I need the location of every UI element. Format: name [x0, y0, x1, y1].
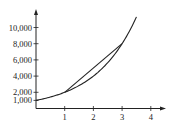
- x-axis-arrow-icon: [160, 107, 166, 111]
- y-tick-label: 2,000: [13, 87, 32, 97]
- exponential-curve: [36, 17, 136, 101]
- y-tick-label: 10,000: [9, 23, 32, 33]
- series: [36, 17, 136, 101]
- y-tick-label: 4,000: [13, 71, 32, 81]
- x-tick-label: 1: [63, 112, 67, 122]
- y-tick-label: 6,000: [13, 55, 32, 65]
- y-ticks: 1,0002,0004,0006,0008,00010,000: [9, 23, 39, 106]
- y-tick-label: 8,000: [13, 39, 32, 49]
- x-tick-label: 2: [91, 112, 95, 122]
- axes: [36, 12, 163, 109]
- x-tick-label: 3: [120, 112, 124, 122]
- secant-line: [65, 44, 122, 93]
- chart: 1234 1,0002,0004,0006,0008,00010,000: [0, 0, 174, 129]
- y-axis-arrow-icon: [34, 9, 38, 15]
- x-tick-label: 4: [149, 112, 154, 122]
